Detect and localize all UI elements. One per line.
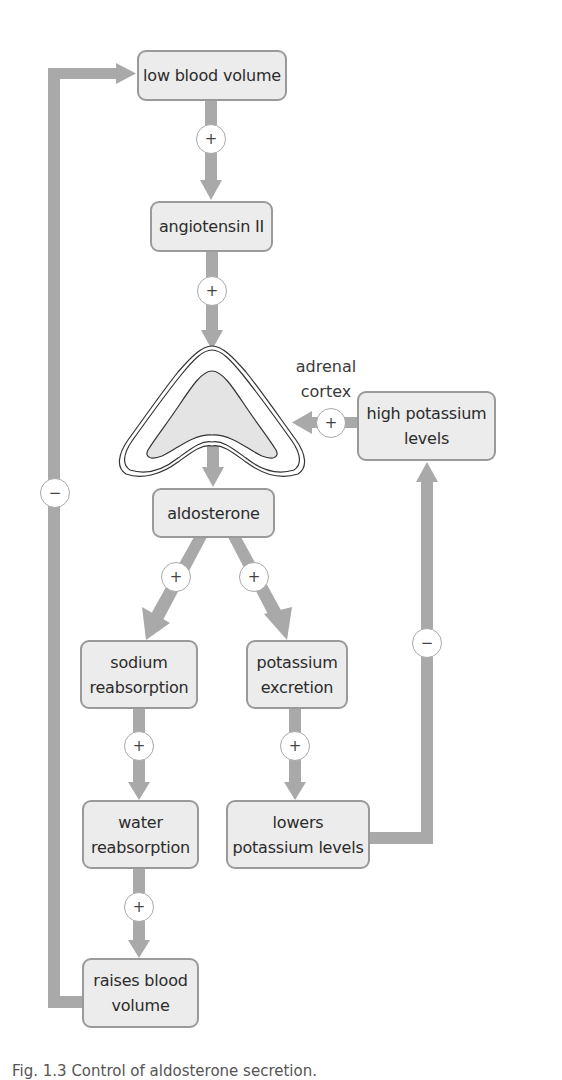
node-label-line-1: water: [91, 810, 190, 835]
label-line: cortex: [286, 379, 366, 404]
figure-caption: Fig. 1.3 Control of aldosterone secretio…: [12, 1062, 317, 1080]
node-label-line-2: volume: [93, 993, 187, 1018]
node-lowers-potassium-levels: lowers potassium levels: [226, 800, 370, 869]
node-label-line-1: sodium: [89, 650, 188, 675]
node-label-line-2: excretion: [256, 675, 337, 700]
plus-sign-icon: +: [280, 731, 310, 761]
plus-sign-icon: +: [196, 124, 226, 154]
plus-sign-icon: +: [316, 408, 346, 438]
node-label-line-2: reabsorption: [91, 835, 190, 860]
plus-sign-icon: +: [161, 562, 191, 592]
minus-sign-icon: −: [412, 628, 442, 658]
adrenal-cortex-label: adrenal cortex: [286, 354, 366, 404]
node-potassium-excretion: potassium excretion: [246, 640, 348, 709]
minus-sign-icon: −: [40, 478, 70, 508]
label-line: adrenal: [286, 354, 366, 379]
plus-sign-icon: +: [239, 562, 269, 592]
node-label-line-1: lowers: [232, 810, 363, 835]
node-label: angiotensin II: [159, 214, 264, 239]
node-angiotensin-ii: angiotensin II: [150, 201, 273, 252]
plus-sign-icon: +: [124, 892, 154, 922]
node-label-line-2: levels: [366, 426, 486, 451]
node-label: aldosterone: [167, 501, 259, 526]
node-label-line-1: potassium: [256, 650, 337, 675]
node-label-line-1: raises blood: [93, 968, 187, 993]
node-raises-blood-volume: raises blood volume: [82, 958, 199, 1028]
node-label: low blood volume: [143, 63, 281, 88]
node-high-potassium-levels: high potassium levels: [357, 391, 496, 461]
node-low-blood-volume: low blood volume: [137, 50, 287, 101]
node-label-line-2: reabsorption: [89, 675, 188, 700]
node-label-line-1: high potassium: [366, 401, 486, 426]
node-water-reabsorption: water reabsorption: [82, 800, 199, 869]
node-label-line-2: potassium levels: [232, 835, 363, 860]
plus-sign-icon: +: [124, 731, 154, 761]
node-aldosterone: aldosterone: [152, 488, 275, 538]
plus-sign-icon: +: [197, 276, 227, 306]
node-sodium-reabsorption: sodium reabsorption: [80, 640, 198, 709]
